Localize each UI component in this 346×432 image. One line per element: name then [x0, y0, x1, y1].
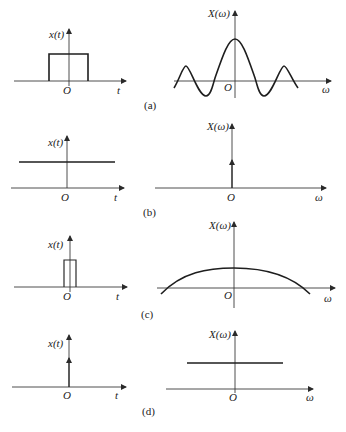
panel-b: x(t) O t X(ω) O ω (b) [11, 120, 326, 219]
panel-c: x(t) O t X(ω) O ω (c) [14, 219, 335, 321]
panel-c-time-plot: x(t) O t [14, 236, 127, 302]
ylabel-xt: x(t) [48, 28, 65, 41]
panel-c-freq-plot: X(ω) O ω [157, 219, 335, 308]
xlabel-t: t [115, 389, 119, 401]
caption-d: (d) [142, 405, 155, 418]
panel-d: x(t) O t X(ω) O ω (d) [12, 328, 314, 418]
origin-label: O [224, 81, 232, 93]
panel-d-time-plot: x(t) O t [12, 335, 126, 401]
xlabel-t: t [117, 84, 121, 96]
main-lobe-curve [161, 268, 310, 294]
xlabel-omega: ω [306, 391, 314, 403]
origin-label: O [63, 290, 71, 302]
ylabel-Xw: X(ω) [206, 120, 229, 133]
ylabel-Xw: X(ω) [208, 219, 231, 232]
xlabel-t: t [114, 191, 118, 203]
ylabel-xt: x(t) [47, 337, 64, 350]
origin-label: O [227, 191, 235, 203]
origin-label: O [61, 191, 69, 203]
origin-label: O [63, 389, 71, 401]
panel-d-freq-plot: X(ω) O ω [166, 328, 314, 403]
origin-label: O [229, 391, 237, 403]
xlabel-omega: ω [322, 83, 330, 95]
xlabel-omega: ω [324, 292, 332, 304]
caption-c: (c) [141, 308, 154, 321]
origin-label: O [224, 289, 232, 301]
panel-b-time-plot: x(t) O t [11, 136, 124, 203]
origin-label: O [63, 84, 71, 96]
xlabel-t: t [116, 290, 120, 302]
sinc-curve [174, 39, 298, 96]
panel-a-time-plot: x(t) O t [14, 28, 126, 96]
ylabel-xt: x(t) [47, 238, 64, 251]
panel-a-freq-plot: X(ω) O ω [174, 7, 331, 98]
rect-pulse [49, 54, 88, 81]
ylabel-Xw: X(ω) [207, 7, 230, 20]
fourier-pairs-figure: x(t) O t X(ω) O ω (a) x(t) O t X(ω) [0, 0, 346, 432]
xlabel-omega: ω [315, 191, 323, 203]
caption-a: (a) [144, 99, 157, 112]
ylabel-Xw: X(ω) [208, 328, 231, 341]
ylabel-xt: x(t) [47, 136, 64, 149]
caption-b: (b) [143, 206, 156, 219]
panel-a: x(t) O t X(ω) O ω (a) [14, 7, 331, 112]
panel-b-freq-plot: X(ω) O ω [155, 120, 326, 203]
